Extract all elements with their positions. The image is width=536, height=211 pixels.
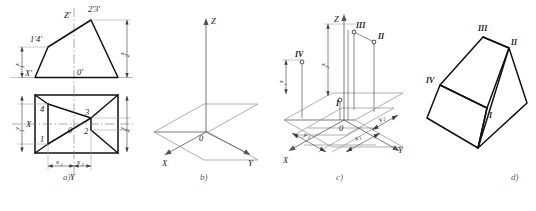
dimension-z2: z 2: [118, 20, 131, 78]
y-axis: [206, 132, 251, 155]
dim-y1-subscript: 1: [18, 129, 26, 133]
panel-d-caption: d): [511, 172, 519, 182]
panel-a-caption: a): [63, 172, 71, 182]
dim-x1-subscript: 1: [61, 162, 64, 167]
point-II-marker: [372, 40, 376, 44]
dimension-y2: y 2: [372, 115, 398, 130]
x-prime-axis-label: X': [24, 68, 32, 78]
top-view-corner-bl: [35, 144, 48, 153]
top-view-corner-tl: [35, 95, 48, 104]
dimension-z2: z 2: [319, 24, 356, 96]
z-axis-label: Z: [334, 14, 339, 24]
dimension-x2: x 2: [74, 158, 91, 168]
solid-right-end-face: [478, 48, 527, 148]
z-axis-label: Z: [211, 16, 216, 26]
dim-x2-label: x: [76, 158, 81, 166]
origin-label: 0: [199, 133, 204, 143]
solid-back-top-edge: [483, 37, 509, 48]
point-II-label: II: [510, 38, 518, 47]
panel-c-caption: c): [336, 172, 343, 182]
panel-b-drawing: Z X Y 0: [142, 0, 270, 190]
top-view-y-axis-label: Y: [70, 172, 76, 182]
top-view-x-axis-label: X: [25, 119, 32, 129]
dim-y2-subscript: 2: [123, 129, 131, 133]
connector-III-II: [354, 32, 374, 42]
panel-b-caption: b): [200, 172, 208, 182]
panel-b: Z X Y 0 b): [142, 0, 270, 185]
point-IV-label: IV: [425, 76, 435, 85]
figure-root: z 1 z 2 Z' 2'3' 1'4' X' 0': [0, 0, 536, 211]
panel-a-drawing: z 1 z 2 Z' 2'3' 1'4' X' 0': [0, 0, 140, 190]
point-1-label: 1: [40, 134, 44, 144]
point-4-label: 4: [40, 104, 45, 114]
point-II-label: II: [377, 32, 385, 41]
point-2-label: 2: [84, 126, 89, 136]
horizontal-plane-lower-quad: [154, 132, 258, 160]
point-I-label: I: [488, 111, 493, 120]
z-axis: [203, 18, 208, 132]
point-2-3-prime-label: 2'3': [88, 4, 100, 14]
origin-prime-label: 0': [77, 67, 83, 77]
panel-d: I II III IV d): [415, 0, 536, 185]
point-3-label: 3: [84, 107, 89, 117]
dimension-z1: z 1: [277, 60, 304, 94]
top-view-corner-tr: [91, 95, 118, 118]
solid-ridge-edge-I-apex: [478, 108, 487, 148]
dimension-z1: z 1: [13, 47, 26, 78]
point-III-label: III: [355, 21, 366, 30]
dimension-x1: x 1: [48, 158, 74, 168]
point-III-label: III: [477, 24, 488, 33]
z-prime-axis-label: Z': [64, 10, 71, 20]
y-axis-label: Y: [398, 145, 404, 155]
solid-top-slope-face: [440, 37, 509, 108]
point-III-marker: [352, 30, 356, 34]
panel-d-drawing: I II III IV: [415, 0, 536, 190]
y-axis-label: Y: [248, 158, 254, 168]
dim-z1-subscript: 1: [283, 83, 288, 86]
point-1-4-prime-label: 1'4': [30, 34, 42, 44]
panel-c: z 2 z 1 x 1: [270, 0, 415, 185]
dim-z2-subscript: 2: [123, 54, 131, 58]
z-axis: [341, 14, 346, 120]
top-view-corner-br: [91, 130, 118, 153]
point-IV-label: IV: [294, 50, 304, 59]
panel-a: z 1 z 2 Z' 2'3' 1'4' X' 0': [0, 0, 140, 185]
x-axis-label: X: [282, 155, 289, 165]
solid-left-end-face: [427, 85, 487, 148]
x-axis-label: X: [161, 158, 168, 168]
dimension-x1: x 1: [346, 133, 380, 152]
panel-c-drawing: z 2 z 1 x 1: [270, 0, 415, 190]
point-IV-marker: [300, 60, 304, 64]
dim-x1-label: x: [55, 158, 60, 166]
